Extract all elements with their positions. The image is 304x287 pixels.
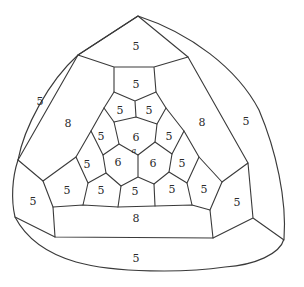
face-label-pent-bottom-left: 5 [98, 184, 105, 197]
face-label-outer-bottom: 5 [133, 252, 140, 265]
face-label-pent-upper-left: 5 [117, 104, 124, 117]
face-label-top-pentagon: 5 [133, 40, 140, 53]
face-label-octagon-left: 8 [65, 117, 72, 130]
face-label-corner-left: 5 [30, 195, 37, 208]
face-label-pent-lower-right: 5 [201, 183, 208, 196]
face-label-pent-bottom-center: 5 [132, 185, 139, 198]
face-label-outer-right: 5 [243, 115, 250, 128]
face-label-pent-bottom-right: 5 [169, 183, 176, 196]
face-label-pent-right: 5 [179, 157, 186, 170]
face-label-pent-mid-right: 5 [166, 130, 173, 143]
vertex-label-a: a [132, 146, 137, 155]
polyhedron-face-diagram: 5 5 5 5 5 8 8 5 5 6 5 5 6 6 5 5 5 5 5 5 … [0, 0, 304, 287]
face-label-pent-mid-left: 5 [98, 130, 105, 143]
face-label-inner-top-pentagon: 5 [133, 78, 140, 91]
diagram-svg: 5 5 5 5 5 8 8 5 5 6 5 5 6 6 5 5 5 5 5 5 … [0, 0, 304, 287]
outer-silhouette-curve [13, 16, 285, 271]
edge-hexagon-left-right [103, 154, 172, 186]
face-label-octagon-right: 8 [199, 116, 206, 129]
face-label-pent-lower-left: 5 [64, 184, 71, 197]
face-label-hexagon-left: 6 [115, 156, 122, 169]
face-label-hexagon-top: 6 [133, 131, 140, 144]
face-label-hexagon-right: 6 [150, 157, 157, 170]
face-label-pent-upper-right: 5 [146, 104, 153, 117]
edge-pent-upper-sides [104, 108, 166, 124]
edge-corner-right [210, 163, 284, 240]
face-label-pent-left: 5 [84, 158, 91, 171]
face-label-outer-left: 5 [37, 95, 44, 108]
face-label-corner-right: 5 [234, 196, 241, 209]
face-label-octagon-bottom: 8 [133, 212, 140, 225]
